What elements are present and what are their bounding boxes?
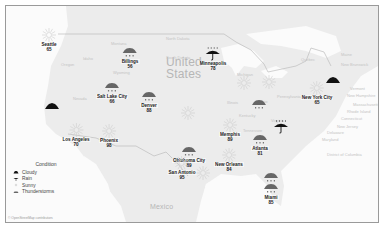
city-temperature: 65 — [46, 47, 51, 52]
sun-icon — [308, 81, 326, 95]
umbrella-icon — [13, 177, 19, 181]
region-label: Oregon — [61, 63, 74, 67]
sun-icon — [221, 118, 239, 132]
weather-marker[interactable] — [235, 76, 253, 90]
region-label: Vermont — [350, 87, 365, 91]
city-marker-san-antonio[interactable]: San Antonio95 — [168, 156, 197, 180]
storm-cloud-icon — [251, 132, 269, 146]
legend: Condition Cloudy Rain Sunny Thunderstorm… — [13, 161, 71, 195]
region-label: Pennsylvania — [277, 95, 301, 99]
weather-marker[interactable] — [272, 120, 290, 134]
region-label: Nevada — [73, 97, 87, 101]
city-temperature: 98 — [106, 143, 111, 148]
weather-marker[interactable] — [250, 97, 268, 111]
region-label: Kentucky — [239, 114, 255, 118]
city-temperature: 95 — [179, 175, 184, 180]
region-label: Maryland — [322, 138, 338, 142]
city-marker-salt-lake-city[interactable]: Salt Lake City66 — [96, 80, 128, 104]
region-label: Massachusetts — [353, 103, 379, 107]
region-label: Quebec — [301, 58, 315, 62]
region-label: Maine — [341, 53, 352, 57]
sun-icon — [179, 106, 197, 120]
city-temperature: 84 — [226, 167, 231, 172]
map-attribution[interactable]: © OpenStreetMap contributors — [8, 216, 53, 220]
sun-icon — [194, 166, 212, 180]
weather-marker[interactable] — [194, 166, 212, 180]
storm-cloud-icon — [121, 45, 139, 59]
legend-label: Cloudy — [22, 170, 37, 175]
sun-icon — [100, 124, 118, 138]
city-marker-atlanta[interactable]: Atlanta81 — [251, 132, 269, 156]
region-label: New Hampshire — [347, 94, 375, 98]
region-label: Connecticut — [341, 117, 362, 121]
legend-label: Rain — [22, 176, 32, 181]
city-marker-minneapolis[interactable]: Minneapolis78 — [199, 47, 228, 71]
city-temperature: 81 — [257, 151, 262, 156]
sun-icon — [260, 75, 278, 89]
city-temperature: 56 — [127, 64, 132, 69]
city-marker-memphis[interactable]: Memphis89 — [219, 118, 241, 142]
sun-icon — [173, 156, 191, 170]
city-marker-billings[interactable]: Billings56 — [121, 45, 140, 69]
weather-marker[interactable] — [43, 98, 61, 112]
city-temperature: 89 — [227, 137, 232, 142]
storm-cloud-icon — [103, 80, 121, 94]
region-label: Illinois — [227, 101, 238, 105]
region-label: New Brunswick — [341, 63, 368, 67]
legend-title: Condition — [21, 161, 71, 167]
city-marker-denver[interactable]: Denver88 — [140, 89, 158, 113]
city-temperature: 88 — [146, 108, 151, 113]
cloud-icon — [13, 170, 19, 174]
city-marker-phoenix[interactable]: Phoenix98 — [99, 124, 119, 148]
city-temperature: 70 — [73, 142, 78, 147]
country-label-line: States — [166, 68, 202, 80]
umbrella-icon — [204, 47, 222, 61]
sun-icon — [13, 183, 19, 187]
city-marker-los-angeles[interactable]: Los Angeles70 — [61, 123, 90, 147]
country-label-mexico: Mexico — [150, 201, 173, 213]
map-container[interactable]: United States Mexico MontanaNorth Dakota… — [5, 5, 379, 223]
sun-icon — [67, 123, 85, 137]
city-marker-new-orleans[interactable]: New Orleans84 — [214, 148, 244, 172]
city-marker-miami[interactable]: Miami85 — [262, 181, 280, 205]
legend-label: Sunny — [22, 183, 36, 188]
region-label: North Dakota — [166, 37, 190, 41]
storm-cloud-icon — [250, 97, 268, 111]
storm-cloud-icon — [13, 190, 19, 194]
storm-cloud-icon — [140, 89, 158, 103]
city-marker-seattle[interactable]: Seattle65 — [40, 28, 58, 52]
city-marker-new-york-city[interactable]: New York City65 — [301, 81, 333, 105]
city-temperature: 85 — [268, 200, 273, 205]
sun-icon — [235, 76, 253, 90]
region-label: Delaware — [327, 131, 344, 135]
storm-cloud-icon — [262, 181, 280, 195]
region-label: Rhode Island — [347, 110, 371, 114]
legend-label: Thunderstorms — [22, 189, 54, 194]
region-label: South Dakota — [166, 56, 190, 60]
umbrella-icon — [272, 120, 290, 134]
sun-icon — [40, 28, 58, 42]
legend-item-thunderstorms[interactable]: Thunderstorms — [13, 189, 71, 196]
weather-marker[interactable] — [179, 106, 197, 120]
region-label: Wyoming — [113, 71, 130, 75]
sun-icon — [220, 148, 238, 162]
city-temperature: 65 — [314, 100, 319, 105]
region-label: District of Columbia — [327, 153, 362, 157]
city-temperature: 78 — [210, 66, 215, 71]
region-label: Idaho — [83, 57, 93, 61]
city-temperature: 66 — [109, 99, 114, 104]
region-label: New Jersey — [337, 125, 358, 129]
cloud-icon — [43, 98, 61, 112]
weather-marker[interactable] — [260, 75, 278, 89]
